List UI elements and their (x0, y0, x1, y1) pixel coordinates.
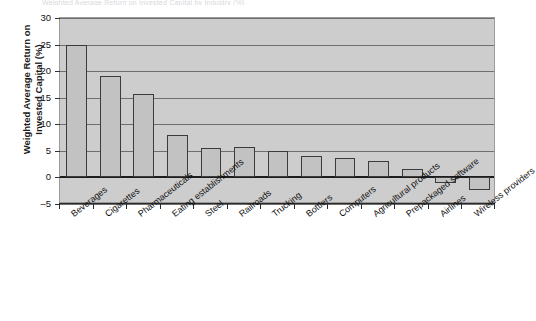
y-tick-label: 10 (21, 123, 51, 124)
y-tick-label: 20 (21, 70, 51, 71)
y-tick-mark (55, 45, 60, 46)
bar (469, 177, 490, 189)
bar (133, 94, 154, 177)
y-tick-label: –5 (21, 203, 51, 204)
chart-title-clipped: Weighted Average Return on Invested Capi… (42, 0, 342, 5)
y-tick-label: 5 (21, 150, 51, 151)
y-tick-label: 30 (21, 17, 51, 18)
y-tick-label: 15 (21, 97, 51, 98)
y-tick-mark (55, 71, 60, 72)
x-tick-mark (227, 203, 228, 209)
bar (167, 135, 188, 178)
y-tick-mark (55, 18, 60, 19)
y-axis-title-line-1: Weighted Average Return on (21, 0, 33, 185)
x-tick-mark (59, 203, 60, 209)
gridline (60, 45, 494, 46)
bar (301, 156, 322, 177)
y-tick-label: 25 (21, 44, 51, 45)
bar (100, 76, 121, 177)
bar (268, 151, 289, 178)
bar (66, 45, 87, 178)
y-tick-label: 0 (21, 176, 51, 177)
gridline (60, 124, 494, 125)
y-tick-mark (55, 177, 60, 178)
y-tick-mark (55, 151, 60, 152)
y-tick-mark (55, 124, 60, 125)
bar (335, 158, 356, 178)
gridline (60, 18, 494, 19)
y-tick-mark (55, 98, 60, 99)
gridline (60, 71, 494, 72)
gridline (60, 98, 494, 99)
bar (368, 161, 389, 177)
